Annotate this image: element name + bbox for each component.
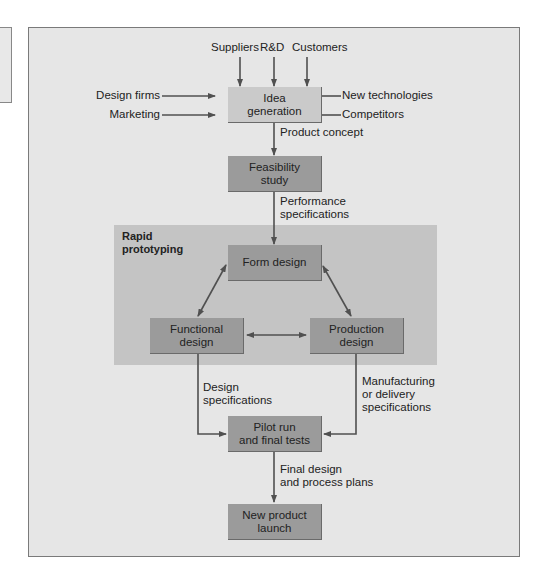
input-customers: Customers bbox=[292, 41, 348, 54]
node-feasibility-study: Feasibility study bbox=[228, 156, 322, 192]
input-suppliers: Suppliers bbox=[211, 41, 259, 54]
edge-label-performance-specs: Performance specifications bbox=[280, 195, 349, 221]
node-new-product-launch: New product launch bbox=[228, 504, 322, 540]
edge-label-final-design: Final design and process plans bbox=[280, 463, 373, 489]
node-production-design: Production design bbox=[310, 318, 404, 354]
node-pilot-run: Pilot run and final tests bbox=[228, 416, 322, 452]
node-form-design: Form design bbox=[228, 245, 322, 281]
edge-label-product-concept: Product concept bbox=[280, 126, 363, 139]
edge-label-design-specs: Design specifications bbox=[203, 381, 272, 407]
input-marketing: Marketing bbox=[110, 108, 161, 121]
input-competitors: Competitors bbox=[342, 108, 404, 121]
input-rnd: R&D bbox=[260, 41, 284, 54]
input-new-technologies: New technologies bbox=[342, 89, 433, 102]
edge-label-manufacturing-specs: Manufacturing or delivery specifications bbox=[362, 375, 435, 414]
node-functional-design: Functional design bbox=[150, 318, 244, 354]
node-idea-generation: Idea generation bbox=[228, 87, 322, 123]
input-design-firms: Design firms bbox=[96, 89, 160, 102]
